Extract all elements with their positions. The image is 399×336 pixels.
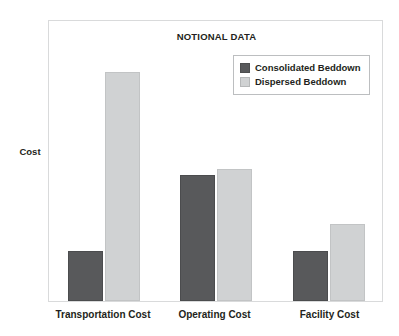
x-axis-label-facility-cost: Facility Cost bbox=[276, 309, 383, 320]
chart-legend: Consolidated Beddown Dispersed Beddown bbox=[233, 55, 370, 95]
legend-label-consolidated-beddown: Consolidated Beddown bbox=[255, 63, 361, 73]
legend-label-dispersed-beddown: Dispersed Beddown bbox=[255, 77, 346, 87]
chart-title: NOTIONAL DATA bbox=[49, 31, 384, 42]
bar-dispersed-transportation-cost[interactable] bbox=[105, 72, 140, 301]
y-axis-label: Cost bbox=[12, 146, 48, 157]
bar-dispersed-facility-cost[interactable] bbox=[330, 224, 365, 301]
bar-chart-figure: Cost NOTIONAL DATA Consolidated Beddown … bbox=[0, 0, 399, 336]
bar-consolidated-operating-cost[interactable] bbox=[180, 175, 215, 301]
bar-consolidated-facility-cost[interactable] bbox=[293, 251, 328, 301]
bar-consolidated-transportation-cost[interactable] bbox=[68, 251, 103, 301]
legend-swatch-dispersed-beddown bbox=[240, 77, 250, 87]
x-axis-label-operating-cost: Operating Cost bbox=[162, 309, 267, 320]
legend-item-dispersed-beddown[interactable]: Dispersed Beddown bbox=[240, 75, 361, 89]
legend-item-consolidated-beddown[interactable]: Consolidated Beddown bbox=[240, 61, 361, 75]
plot-area: NOTIONAL DATA Consolidated Beddown Dispe… bbox=[48, 20, 383, 302]
legend-swatch-consolidated-beddown bbox=[240, 63, 250, 73]
bar-dispersed-operating-cost[interactable] bbox=[217, 169, 252, 301]
x-axis-label-transportation-cost: Transportation Cost bbox=[48, 309, 158, 320]
